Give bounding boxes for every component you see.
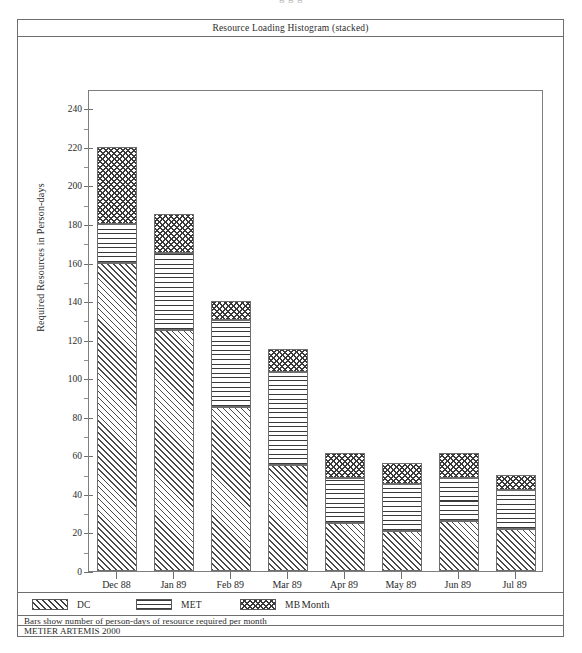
bar-stack [154,89,194,571]
x-axis-tick-mark [173,572,174,579]
bar-segment-dc [439,521,479,571]
bar-stack [382,89,422,571]
legend-label: MET [181,600,202,610]
top-cut-text-strip: g g g [0,0,582,14]
bar-segment-mb [382,463,422,484]
chart-plot-area: Required Resources in Person-days 020406… [18,37,565,592]
y-axis-tick-label: 220 [48,143,82,153]
bar-segment-dc [496,529,536,571]
legend-label: MB [285,600,300,610]
chart-legend: DCMETMB [18,592,563,615]
y-axis-tick-label: 140 [48,297,82,307]
y-axis-tick-labels: 020406080100120140160180200220240 [44,90,82,572]
legend-entry-dc: DC [32,599,91,610]
y-axis-tick-label: 40 [48,490,82,500]
x-axis-tick-label: Jan 89 [160,579,186,590]
x-axis-tick-mark [458,572,459,579]
bar-segment-met [211,320,251,407]
bars-container [89,91,542,571]
bar-segment-met [154,253,194,330]
y-axis-tick-label: 200 [48,181,82,191]
bar-segment-mb [154,214,194,253]
y-axis-tick-label: 120 [48,336,82,346]
y-axis-tick-label: 180 [48,220,82,230]
x-axis-tick-mark [230,572,231,579]
x-axis-tick-label: May 89 [385,579,416,590]
x-axis-tick-mark [344,572,345,579]
bar-segment-mb [325,453,365,478]
bar-segment-met [382,484,422,530]
x-axis-tick-label: Mar 89 [272,579,301,590]
y-axis-tick-label: 100 [48,374,82,384]
x-axis-tick-mark [116,572,117,579]
footer-brand: METIER ARTEMIS 2000 [18,625,563,637]
legend-label: DC [77,600,91,610]
x-axis-tick-mark [287,572,288,579]
bar-stack [325,89,365,571]
x-axis-tick-label: Apr 89 [330,579,358,590]
bar-segment-dc [268,465,308,571]
bar-segment-mb [268,349,308,372]
y-axis-tick-label: 80 [48,413,82,423]
bar-segment-mb [97,147,137,224]
bar-segment-dc [382,531,422,571]
y-axis-tick-label: 0 [48,567,82,577]
bar-segment-dc [97,263,137,571]
page-title: Resource Loading Histogram (stacked) [18,20,563,37]
x-axis-tick-marks [88,572,543,579]
y-axis-tick-label: 160 [48,259,82,269]
x-axis-tick-mark [401,572,402,579]
bar-segment-mb [439,453,479,478]
y-axis-tick-label: 240 [48,104,82,114]
x-axis-tick-label: Feb 89 [216,579,244,590]
x-axis-tick-label: Dec 88 [102,579,131,590]
bar-segment-dc [154,330,194,571]
axes-box [88,90,543,572]
bar-stack [211,89,251,571]
legend-entry-mb: MB [240,599,300,610]
bar-stack [496,89,536,571]
x-axis-tick-label: Jul 89 [502,579,526,590]
top-cut-text: g g g [0,0,582,2]
bar-segment-met [268,372,308,465]
legend-swatch-mb-icon [240,599,276,610]
bar-segment-met [325,478,365,522]
x-axis-tick-label: Jun 89 [444,579,470,590]
bar-segment-mb [211,301,251,320]
bar-segment-mb [496,475,536,490]
legend-swatch-dc-icon [32,599,68,610]
bar-stack [439,89,479,571]
bar-stack [268,89,308,571]
bar-segment-met [97,224,137,263]
legend-entry-met: MET [136,599,202,610]
bar-segment-dc [211,407,251,571]
y-axis-tick-label: 20 [48,528,82,538]
legend-swatch-met-icon [136,599,172,610]
y-axis-tick-label: 60 [48,451,82,461]
bar-stack [97,89,137,571]
bar-segment-dc [325,523,365,571]
bar-segment-met [439,478,479,520]
bar-segment-met [496,490,536,529]
x-axis-tick-mark [515,572,516,579]
report-frame: Resource Loading Histogram (stacked) Req… [17,19,564,637]
